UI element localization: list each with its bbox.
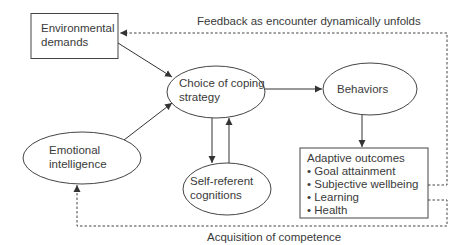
emotional-intelligence-label-line1: Emotional bbox=[49, 144, 100, 157]
environmental-demands-label-line1: Environmental bbox=[41, 22, 115, 35]
acquisition-dashed-line bbox=[77, 185, 447, 226]
acquisition-label: Acquisition of competence bbox=[207, 231, 341, 244]
feedback-label: Feedback as encounter dynamically unfold… bbox=[197, 15, 421, 28]
adaptive-outcomes-title: Adaptive outcomes bbox=[307, 152, 405, 165]
adaptive-outcome-item: • Subjective wellbeing bbox=[307, 178, 418, 191]
arrow-env-to-coping bbox=[118, 43, 172, 77]
adaptive-outcome-item: • Learning bbox=[307, 191, 359, 204]
environmental-demands-label-line2: demands bbox=[41, 36, 88, 49]
choice-of-coping-label-line2: strategy bbox=[179, 91, 220, 104]
emotional-intelligence-label-line2: intelligence bbox=[49, 158, 107, 171]
behaviors-label: Behaviors bbox=[337, 83, 388, 96]
arrow-ei-to-coping bbox=[124, 103, 172, 140]
self-referent-label-line2: cognitions bbox=[190, 189, 242, 202]
adaptive-outcome-item: • Goal attainment bbox=[307, 165, 395, 178]
adaptive-outcome-item: • Health bbox=[307, 204, 347, 217]
self-referent-label-line1: Self-referent bbox=[190, 175, 253, 188]
choice-of-coping-label-line1: Choice of coping bbox=[179, 77, 265, 90]
